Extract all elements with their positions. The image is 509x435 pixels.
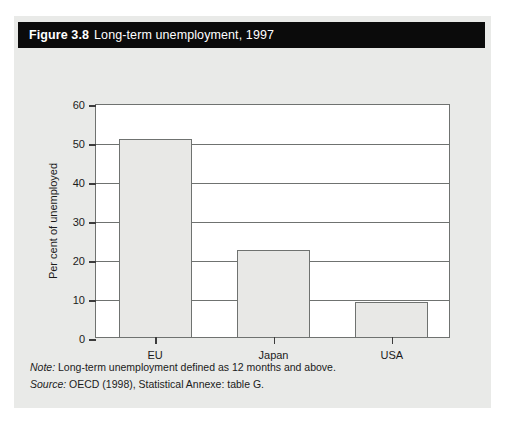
bar <box>355 302 428 337</box>
y-tick-label: 30 <box>73 216 85 228</box>
note-label: Note: <box>30 361 55 373</box>
y-axis-label: Per cent of unemployed <box>45 104 61 338</box>
y-tick-mark <box>89 105 96 107</box>
bar <box>119 139 192 337</box>
y-tick-label: 0 <box>79 333 85 345</box>
bar <box>237 250 310 337</box>
y-tick-mark <box>89 339 96 341</box>
y-tick-label: 40 <box>73 177 85 189</box>
x-tick-mark <box>274 337 276 344</box>
y-tick-mark <box>89 144 96 146</box>
note-line: Note: Long-term unemployment defined as … <box>30 359 475 376</box>
y-tick-mark <box>89 183 96 185</box>
plot-frame: 0102030405060 EUJapanUSA <box>95 104 450 338</box>
source-line: Source: OECD (1998), Statistical Annexe:… <box>30 376 475 393</box>
y-axis-label-text: Per cent of unemployed <box>47 163 59 279</box>
y-tick-label: 10 <box>73 294 85 306</box>
footnotes: Note: Long-term unemployment defined as … <box>30 359 475 393</box>
y-tick-label: 60 <box>73 99 85 111</box>
x-tick-mark <box>155 337 157 344</box>
y-tick-label: 20 <box>73 255 85 267</box>
chart-area: Per cent of unemployed 0102030405060 EUJ… <box>14 54 491 360</box>
figure-number: Figure 3.8 <box>29 28 89 42</box>
y-tick-label: 50 <box>73 138 85 150</box>
x-tick-mark <box>392 337 394 344</box>
figure-title-bar: Figure 3.8 Long-term unemployment, 1997 <box>18 22 485 48</box>
note-text: Long-term unemployment defined as 12 mon… <box>58 361 336 373</box>
y-tick-mark <box>89 261 96 263</box>
source-text: OECD (1998), Statistical Annexe: table G… <box>69 378 264 390</box>
source-label: Source: <box>30 378 66 390</box>
figure-card: Figure 3.8 Long-term unemployment, 1997 … <box>14 16 491 408</box>
figure-title: Long-term unemployment, 1997 <box>94 28 274 42</box>
y-tick-mark <box>89 222 96 224</box>
y-tick-mark <box>89 300 96 302</box>
